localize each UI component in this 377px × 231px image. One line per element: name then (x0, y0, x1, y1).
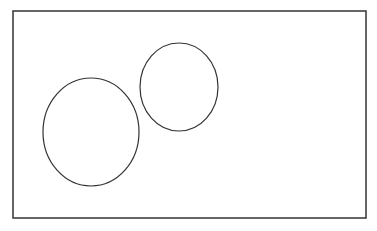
diagram-canvas (0, 0, 377, 231)
large-ellipse (43, 78, 139, 186)
frame-rectangle (13, 11, 366, 218)
small-ellipse (140, 43, 218, 131)
